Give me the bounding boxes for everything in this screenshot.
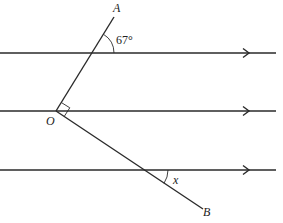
parallel-line-middle: [0, 107, 276, 116]
label-B: B: [203, 205, 211, 219]
parallel-line-bottom: [0, 166, 276, 175]
segment-OA: [56, 17, 114, 111]
label-angle-67: 67°: [116, 33, 133, 47]
right-angle-marker: [61, 103, 70, 117]
geometry-diagram: A O B 67° x: [0, 0, 283, 223]
segment-OB: [56, 111, 203, 209]
label-angle-x: x: [172, 173, 179, 187]
angle-arc-x: [164, 170, 168, 183]
parallel-line-top: [0, 49, 276, 58]
label-A: A: [112, 1, 121, 15]
angle-arc-67: [104, 34, 115, 53]
label-O: O: [46, 114, 55, 128]
